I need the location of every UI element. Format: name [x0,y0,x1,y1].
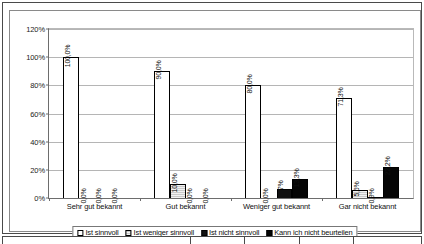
bar-slot: 0,0% [186,29,202,198]
bar-slot: 0,0% [201,29,217,198]
chart-object-frame[interactable]: 0%20%40%60%80%100%120% 100,0%0,0%0,0%0,0… [9,10,421,232]
legend-swatch-icon [126,230,132,236]
table-cell [191,237,245,244]
bar-value-label: 80,0% [246,75,253,94]
bar[interactable]: 6,7% [277,189,293,198]
bar-slot: 13,3% [292,29,308,198]
bar-slot: 22,2% [383,29,399,198]
bar-value-label: 90,0% [155,61,162,80]
x-axis-category-label: Gar nicht bekannt [322,202,413,211]
bar-group: 71,3%5,6%0,9%22,2%Gar nicht bekannt [322,29,413,198]
x-axis-tick [231,198,232,201]
bar[interactable]: 100,0% [63,57,79,198]
bar-slot: 0,9% [368,29,384,198]
bar-slot: 0,0% [79,29,95,198]
x-axis-category-label: Weniger gut bekannt [231,202,322,211]
bar-slot: 0,0% [110,29,126,198]
bar-value-label: 5,6% [353,182,360,197]
y-axis-tick-label: 0% [34,194,45,203]
x-axis-tick [49,198,50,201]
bar-slot: 6,7% [277,29,293,198]
bottom-table-row [2,236,422,244]
y-axis-tick-label: 40% [30,137,45,146]
bar-value-label: 13,3% [293,169,300,188]
legend-swatch-icon [201,230,207,236]
x-axis-tick [140,198,141,201]
bar-value-label: 22,2% [384,156,391,175]
bar[interactable]: 90,0% [154,71,170,198]
bar[interactable]: 13,3% [292,179,308,198]
table-cell [245,237,299,244]
bar-slot: 90,0% [154,29,170,198]
table-cell [300,237,354,244]
bar-groups: 100,0%0,0%0,0%0,0%Sehr gut bekannt90,0%1… [49,29,413,198]
table-cell [354,237,421,244]
bar-group-bars: 71,3%5,6%0,9%22,2% [322,29,413,198]
bar-group: 80,0%0,0%6,7%13,3%Weniger gut bekannt [231,29,322,198]
document-frame: 0%20%40%60%80%100%120% 100,0%0,0%0,0%0,0… [2,2,422,234]
bar-slot: 71,3% [336,29,352,198]
bar[interactable]: 5,6% [352,190,368,198]
bar[interactable]: 22,2% [383,167,399,198]
y-axis-tick-label: 80% [30,81,45,90]
bar-group: 90,0%10,0%0,0%0,0%Gut bekannt [140,29,231,198]
bar-value-label: 71,3% [337,87,344,106]
bar-group-bars: 100,0%0,0%0,0%0,0% [49,29,140,198]
bar-slot: 10,0% [170,29,186,198]
y-axis-tick-label: 120% [26,25,45,34]
bar[interactable]: 10,0% [170,184,186,198]
bar-slot: 80,0% [245,29,261,198]
legend-swatch-icon [77,230,83,236]
bar-value-label: 10,0% [171,173,178,192]
y-axis-tick-label: 100% [26,53,45,62]
bar-slot: 5,6% [352,29,368,198]
bar-value-label: 6,7% [277,180,284,195]
plot-area: 0%20%40%60%80%100%120% 100,0%0,0%0,0%0,0… [48,28,414,199]
bar-group-bars: 90,0%10,0%0,0%0,0% [140,29,231,198]
table-cell [3,237,191,244]
y-axis-tick-label: 60% [30,109,45,118]
bar-slot: 0,0% [261,29,277,198]
bar-slot: 100,0% [63,29,79,198]
bar-group-bars: 80,0%0,0%6,7%13,3% [231,29,322,198]
bar-slot: 0,0% [95,29,111,198]
y-axis-tick-label: 20% [30,165,45,174]
legend-swatch-icon [266,230,272,236]
bar-group: 100,0%0,0%0,0%0,0%Sehr gut bekannt [49,29,140,198]
x-axis-category-label: Gut bekannt [140,202,231,211]
bar[interactable]: 0,9% [368,197,384,198]
bar[interactable]: 71,3% [336,98,352,198]
bar-value-label: 100,0% [64,45,71,68]
x-axis-category-label: Sehr gut bekannt [49,202,140,211]
x-axis-tick [322,198,323,201]
bar[interactable]: 80,0% [245,85,261,198]
